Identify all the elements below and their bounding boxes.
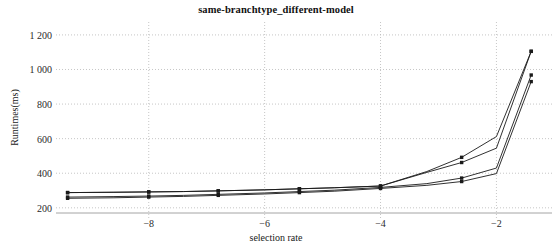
data-point-marker	[147, 194, 150, 197]
data-point-marker	[460, 176, 463, 179]
series-line-4	[68, 51, 532, 192]
data-point-marker	[530, 50, 533, 53]
data-series	[66, 50, 533, 200]
data-point-marker	[530, 80, 533, 83]
x-tick-label: −6	[259, 218, 270, 229]
data-point-marker	[298, 187, 301, 190]
data-point-marker	[147, 190, 150, 193]
data-point-marker	[460, 156, 463, 159]
chart-plot	[0, 0, 552, 249]
data-point-marker	[530, 73, 533, 76]
data-point-marker	[66, 195, 69, 198]
data-point-marker	[379, 184, 382, 187]
data-point-marker	[217, 189, 220, 192]
x-tick-label: −2	[491, 218, 502, 229]
chart-container: same-branchtype_different-model 20040060…	[0, 0, 552, 249]
x-tick-label: −8	[143, 218, 154, 229]
series-line-3	[68, 51, 532, 192]
data-point-marker	[217, 193, 220, 196]
x-axis-title: selection rate	[0, 232, 552, 243]
data-point-marker	[460, 161, 463, 164]
data-point-marker	[66, 191, 69, 194]
data-point-marker	[460, 180, 463, 183]
x-tick-label: −4	[375, 218, 386, 229]
